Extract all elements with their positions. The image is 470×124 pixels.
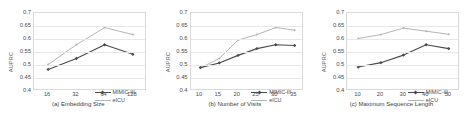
y-tick-label: 0.65 [333, 22, 344, 28]
data-point-marker [402, 27, 405, 30]
plot-area [346, 12, 459, 90]
chart-panel-a: AUPRC 0.40.450.50.550.60.650.7 163264128… [0, 0, 157, 124]
y-tick-label: 0.65 [20, 22, 31, 28]
data-point-marker [132, 33, 135, 36]
data-point-marker [425, 43, 428, 46]
gridline [191, 52, 302, 53]
data-point-marker [402, 53, 405, 56]
gridline [347, 39, 458, 40]
legend-swatch-icon [408, 89, 424, 96]
panel-caption: (c) Maximum Sequence Length [313, 101, 470, 107]
data-point-marker [293, 29, 296, 32]
series-line-eicu [200, 28, 294, 68]
data-point-marker [236, 54, 239, 57]
y-tick-label: 0.7 [23, 9, 31, 15]
gridline [191, 78, 302, 79]
data-point-marker [379, 61, 382, 64]
y-tick-label: 0.5 [336, 61, 344, 67]
y-tick-labels: 0.40.450.50.550.60.650.7 [322, 12, 344, 90]
gridline [347, 52, 458, 53]
y-tick-label: 0.6 [336, 35, 344, 41]
data-point-marker [255, 47, 258, 50]
legend-item: MIMIC-III [95, 88, 153, 96]
y-tick-label: 0.55 [20, 48, 31, 54]
y-tick-label: 0.55 [333, 48, 344, 54]
gridline [191, 26, 302, 27]
data-point-marker [448, 33, 451, 36]
data-point-marker [46, 68, 49, 71]
gridline [347, 65, 458, 66]
y-tick-label: 0.4 [180, 87, 188, 93]
plot-area [190, 12, 303, 90]
data-point-marker [274, 43, 277, 46]
y-tick-label: 0.4 [23, 87, 31, 93]
data-point-marker [292, 44, 295, 47]
legend-item: MIMIC-III [408, 88, 466, 96]
y-tick-label: 0.7 [180, 9, 188, 15]
plot-area [33, 12, 146, 90]
gridline [34, 52, 145, 53]
x-tick-label: 10 [354, 91, 360, 97]
data-point-marker [380, 33, 383, 36]
data-point-marker [131, 53, 134, 56]
x-tick-label: 20 [233, 91, 239, 97]
y-tick-label: 0.7 [336, 9, 344, 15]
data-point-marker [255, 33, 258, 36]
x-tick-label: 16 [44, 91, 50, 97]
legend-label: MIMIC-III [426, 89, 448, 95]
legend-item: MIMIC-III [251, 88, 309, 96]
gridline [191, 65, 302, 66]
y-tick-label: 0.45 [176, 74, 187, 80]
gridline [34, 78, 145, 79]
legend-label: MIMIC-III [269, 89, 291, 95]
y-tick-label: 0.45 [20, 74, 31, 80]
y-tick-label: 0.5 [23, 61, 31, 67]
series-line-eicu [48, 28, 133, 65]
y-tick-label: 0.65 [176, 22, 187, 28]
chart-panel-c: AUPRC 0.40.450.50.550.60.650.7 102030405… [313, 0, 470, 124]
gridline [347, 78, 458, 79]
series-line-eicu [358, 28, 448, 38]
x-tick-label: 10 [196, 91, 202, 97]
y-tick-label: 0.5 [180, 61, 188, 67]
gridline [347, 26, 458, 27]
data-point-marker [198, 66, 201, 69]
y-tick-label: 0.6 [180, 35, 188, 41]
legend-label: MIMIC-III [113, 89, 135, 95]
y-tick-label: 0.6 [23, 35, 31, 41]
y-tick-label: 0.45 [333, 74, 344, 80]
chart-panel-b: AUPRC 0.40.450.50.550.60.650.7 101520253… [157, 0, 314, 124]
x-tick-label: 15 [215, 91, 221, 97]
legend-swatch-icon [251, 89, 267, 96]
panel-caption: (a) Embedding Size [0, 101, 157, 107]
legend-swatch-icon [95, 89, 111, 96]
figure-panels: AUPRC 0.40.450.50.550.60.650.7 163264128… [0, 0, 470, 124]
panel-caption: (b) Number of Visits [157, 101, 314, 107]
x-tick-label: 32 [72, 91, 78, 97]
x-tick-label: 30 [399, 91, 405, 97]
y-tick-labels: 0.40.450.50.550.60.650.7 [166, 12, 188, 90]
y-tick-label: 0.4 [336, 87, 344, 93]
gridline [191, 39, 302, 40]
y-tick-label: 0.55 [176, 48, 187, 54]
gridline [34, 26, 145, 27]
data-point-marker [447, 47, 450, 50]
y-tick-labels: 0.40.450.50.550.60.650.7 [9, 12, 31, 90]
data-point-marker [425, 30, 428, 33]
gridline [34, 39, 145, 40]
gridline [34, 65, 145, 66]
x-tick-label: 20 [377, 91, 383, 97]
